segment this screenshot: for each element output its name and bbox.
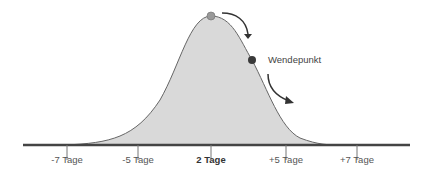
tick-label-minus5: -5 Tage	[122, 154, 154, 165]
inflection-dot	[248, 56, 256, 64]
arrow-lower	[268, 74, 289, 101]
inflection-label: Wendepunkt	[268, 54, 321, 65]
tick-label-plus7: +7 Tage	[340, 154, 374, 165]
tick-label-center: 2 Tage	[196, 154, 225, 165]
peak-dot	[207, 12, 215, 20]
tick-label-minus7: -7 Tage	[51, 154, 83, 165]
curve-area	[65, 16, 340, 145]
tick-label-plus5: +5 Tage	[269, 154, 303, 165]
arrow-upper-head	[244, 34, 252, 39]
arrow-lower-head	[285, 96, 294, 104]
